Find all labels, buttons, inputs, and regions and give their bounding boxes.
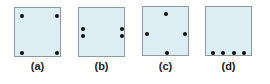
dot	[165, 51, 169, 55]
label-a: (a)	[14, 60, 61, 72]
dot	[81, 27, 85, 31]
panel-box-a	[14, 7, 61, 57]
dot	[211, 51, 215, 55]
dot	[183, 32, 187, 36]
dot	[81, 34, 85, 38]
dot	[55, 51, 59, 55]
label-b: (b)	[78, 60, 125, 72]
label-c: (c)	[142, 60, 189, 72]
panel-box-c	[142, 6, 189, 56]
dot	[120, 34, 124, 38]
panel-box-d	[205, 6, 252, 56]
dot	[242, 51, 246, 55]
dot	[20, 14, 24, 18]
dot	[232, 51, 236, 55]
dot	[145, 32, 149, 36]
dot	[20, 51, 24, 55]
panel-box-b	[78, 7, 125, 57]
dot	[221, 51, 225, 55]
dot	[120, 27, 124, 31]
dot	[55, 14, 59, 18]
dot	[164, 12, 168, 16]
label-d: (d)	[205, 60, 252, 72]
